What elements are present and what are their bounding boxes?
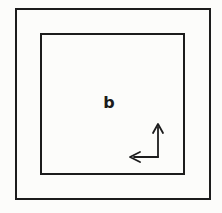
region-label: b [101,93,117,112]
figure-canvas: b [0,0,222,213]
